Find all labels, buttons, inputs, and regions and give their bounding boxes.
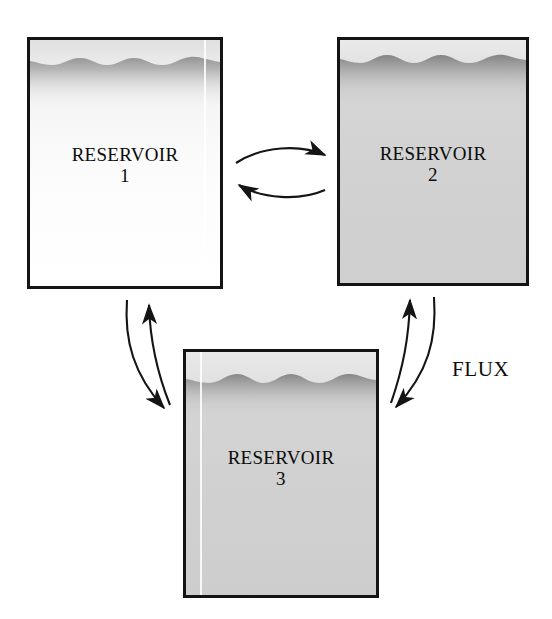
arrow-2-to-3 [396,297,435,407]
reservoir-2-label: RESERVOIR 2 [340,143,526,186]
reservoir-2-index: 2 [340,164,526,185]
reservoir-1-liquid-surface [30,40,220,112]
reservoir-box-2[interactable]: RESERVOIR 2 [337,37,529,286]
reservoir-1-name: RESERVOIR [30,144,220,165]
reservoir-1-index: 1 [30,165,220,186]
flux-label: FLUX [452,357,509,382]
reservoir-box-1[interactable]: RESERVOIR 1 [27,37,223,289]
reservoir-3-index: 3 [186,468,376,489]
reservoir-3-name: RESERVOIR [186,447,376,468]
arrow-1-to-2 [236,148,325,163]
arrow-3-to-2 [391,300,410,403]
arrow-1-to-3 [126,300,164,408]
reservoir-flux-diagram: RESERVOIR 1 RESERVOIR [0,0,552,619]
reservoir-2-name: RESERVOIR [340,143,526,164]
reservoir-1-label: RESERVOIR 1 [30,144,220,187]
reservoir-box-3[interactable]: RESERVOIR 3 [183,349,379,598]
reservoir-3-liquid-surface [186,352,376,424]
arrow-3-to-1 [149,305,170,405]
arrow-2-to-1 [239,185,325,197]
reservoir-2-liquid-surface [340,40,526,112]
reservoir-3-label: RESERVOIR 3 [186,447,376,490]
